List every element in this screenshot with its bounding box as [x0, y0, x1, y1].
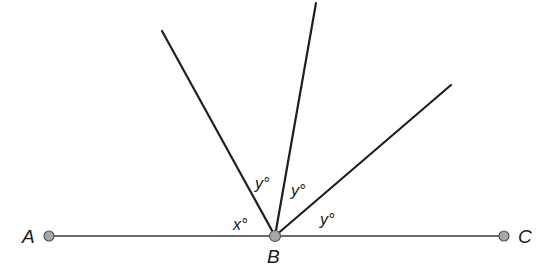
angle-label-x: x° — [232, 216, 248, 233]
point-c-label: C — [518, 226, 532, 247]
angle-diagram: A B C x° y° y° y° — [0, 0, 550, 272]
point-b — [270, 231, 281, 242]
point-c — [499, 231, 509, 241]
angle-label-y-1: y° — [254, 175, 270, 192]
angle-label-y-2: y° — [290, 182, 306, 199]
ray-1 — [162, 31, 275, 236]
ray-2 — [275, 3, 316, 236]
point-a — [44, 231, 54, 241]
ray-3 — [275, 85, 451, 236]
angle-label-y-3: y° — [319, 211, 335, 228]
point-b-label: B — [267, 246, 280, 267]
point-a-label: A — [21, 226, 35, 247]
